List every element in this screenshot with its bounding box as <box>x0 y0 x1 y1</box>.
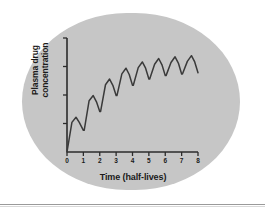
x-tick-label: 6 <box>160 157 170 164</box>
x-tick-label: 3 <box>111 157 121 164</box>
x-tick-label: 2 <box>95 157 105 164</box>
x-tick-label: 4 <box>128 157 138 164</box>
footer-divider-line-secondary <box>0 206 265 207</box>
footer-divider-line <box>0 204 265 205</box>
x-tick-label: 1 <box>78 157 88 164</box>
x-axis-title: Time (half-lives) <box>66 172 200 183</box>
y-axis-title-line1: Plasma drug <box>30 25 40 115</box>
y-axis-title: Plasma drug concentration <box>30 25 50 115</box>
figure-root: Plasma drug concentration Time (half-liv… <box>0 0 265 213</box>
concentration-curve <box>67 56 198 152</box>
x-tick-label: 0 <box>62 157 72 164</box>
x-tick-label: 5 <box>144 157 154 164</box>
x-tick-label: 8 <box>193 157 203 164</box>
y-axis-title-line2: concentration <box>40 25 50 115</box>
x-tick-label: 7 <box>177 157 187 164</box>
chart-axes <box>63 38 198 156</box>
